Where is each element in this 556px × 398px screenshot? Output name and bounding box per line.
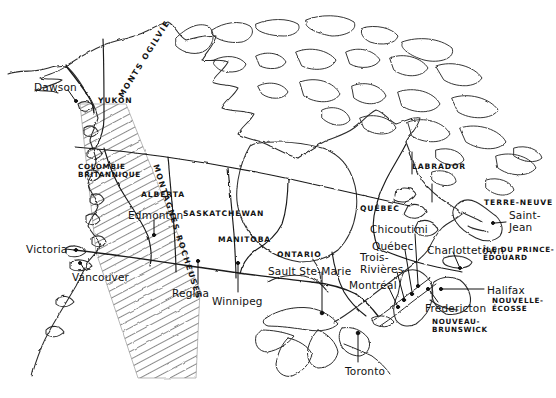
province-label-colombie-brit: COLOMBIEBRITANNIQUE [78,163,141,179]
city-label-victoria: Victoria [26,244,67,255]
province-label-yukon: YUKON [98,97,133,105]
province-label-nouvelle-ecosse: NOUVELLE-ÉCOSSE [492,297,544,313]
province-label-labrador: LABRADOR [412,163,466,171]
city-label-dawson: Dawson [34,82,77,93]
city-label-charlottetown: Charlottetown [427,245,504,256]
city-label-saint-jean: Saint-Jean [509,210,541,234]
province-label-manitoba: MANITOBA [218,236,271,244]
city-label-quebec-city: Québec [372,241,413,252]
city-label-chicoutimi: Chicoutimi [370,224,428,235]
map-canvas: YUKONCOLOMBIEBRITANNIQUEALBERTASASKATCHE… [0,0,556,398]
province-label-ontario: ONTARIO [277,251,322,259]
city-label-sault-ste-marie: Sault Ste-Marie [268,266,351,277]
city-label-vancouver: Vancouver [72,272,129,283]
city-label-montreal: Montréal [349,280,397,291]
arctic-islands [176,16,542,195]
province-label-quebec: QUÉBEC [360,205,400,213]
city-label-winnipeg: Winnipeg [212,296,263,307]
city-label-fredericton: Fredericton [425,303,486,314]
map-drawing [0,0,556,398]
province-label-saskatchewan: SASKATCHEWAN [183,210,264,218]
province-label-nouveau-brunswick: NOUVEAU-BRUNSWICK [432,318,488,334]
city-label-halifax: Halifax [487,285,525,296]
city-label-trois-rivieres: Trois-Rivières [360,252,403,276]
city-label-toronto: Toronto [345,366,385,377]
province-label-terre-neuve: TERRE-NEUVE [484,199,553,207]
